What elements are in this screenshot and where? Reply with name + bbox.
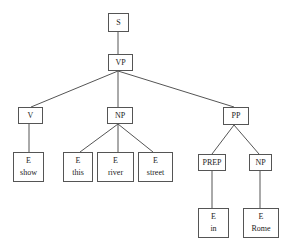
node-e-rome: E Rome	[243, 208, 279, 238]
node-word: in	[210, 223, 216, 235]
node-label: NP	[115, 110, 125, 122]
node-label: E	[259, 211, 264, 223]
node-label: PREP	[202, 157, 221, 169]
parse-tree-diagram: S VP V NP PP E show E this E river E str…	[0, 0, 293, 251]
node-label: VP	[115, 57, 125, 69]
edge-vp-pp	[118, 71, 234, 107]
node-e-river: E river	[97, 152, 134, 182]
node-word: Rome	[251, 223, 270, 235]
node-word: river	[108, 167, 123, 179]
node-label: PP	[232, 110, 241, 122]
node-word: show	[20, 167, 37, 179]
node-label: E	[113, 155, 118, 167]
node-np-rome: NP	[249, 154, 272, 171]
node-label: E	[153, 155, 158, 167]
node-s: S	[108, 13, 129, 32]
node-prep: PREP	[198, 154, 226, 171]
node-vp: VP	[108, 54, 133, 71]
node-word: street	[147, 167, 164, 179]
edge-vp-v	[31, 71, 118, 107]
node-e-in: E in	[198, 208, 229, 238]
node-e-this: E this	[63, 152, 93, 182]
node-label: V	[28, 110, 34, 122]
node-label: NP	[255, 157, 265, 169]
edge-np-e-street	[118, 124, 153, 152]
node-e-street: E street	[138, 152, 173, 182]
node-v: V	[18, 107, 43, 124]
edge-pp-prep	[212, 125, 234, 154]
node-word: this	[72, 167, 84, 179]
node-label: E	[211, 211, 216, 223]
node-label: E	[26, 155, 31, 167]
edge-pp-np	[234, 125, 259, 154]
node-e-show: E show	[13, 152, 44, 182]
edge-np-e-this	[80, 124, 118, 152]
node-np: NP	[107, 107, 133, 124]
node-pp: PP	[223, 107, 249, 125]
node-label: E	[76, 155, 81, 167]
node-label: S	[116, 17, 120, 29]
